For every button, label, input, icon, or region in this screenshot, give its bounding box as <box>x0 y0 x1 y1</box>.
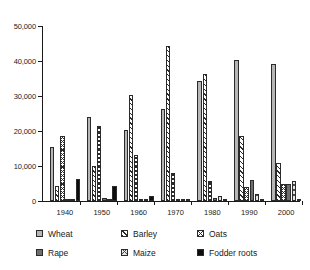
bar <box>244 187 248 201</box>
y-tick-mark <box>38 166 42 167</box>
bar <box>250 180 254 201</box>
bar <box>87 117 91 201</box>
x-tick-mark <box>265 201 266 205</box>
bar <box>124 130 128 201</box>
bar-group <box>87 26 117 201</box>
bar-chart: 010,00020,00030,00040,00050,000 19401950… <box>0 0 310 270</box>
y-tick-label: 40,000 <box>14 57 36 66</box>
legend-label: Oats <box>209 229 227 239</box>
bar <box>107 199 111 201</box>
x-tick-label: 2000 <box>278 208 295 217</box>
x-tick-mark <box>117 201 118 205</box>
y-tick-label: 50,000 <box>14 22 36 31</box>
bar <box>171 173 175 201</box>
bar-group <box>271 26 301 201</box>
fodder-roots-swatch <box>197 249 204 256</box>
bar <box>260 199 264 201</box>
y-tick-mark <box>38 201 42 202</box>
bar <box>176 199 180 201</box>
x-tick-label: 1940 <box>57 208 74 217</box>
legend-row: WheatBarleyOats <box>36 224 292 243</box>
chart-legend: WheatBarleyOatsRapeMaizeFodder roots <box>36 224 292 262</box>
bar <box>213 198 217 201</box>
bar <box>218 196 222 201</box>
bar <box>112 186 116 201</box>
rape-swatch <box>36 249 43 256</box>
legend-item[interactable]: Maize <box>121 248 197 258</box>
y-tick-mark <box>38 96 42 97</box>
bar-group <box>197 26 227 201</box>
bar <box>286 184 290 202</box>
bar <box>234 60 238 201</box>
bar <box>139 199 143 201</box>
bar <box>186 199 190 201</box>
legend-item[interactable]: Rape <box>36 248 121 258</box>
bar <box>129 95 133 201</box>
bar-group <box>234 26 264 201</box>
y-tick-mark <box>38 131 42 132</box>
bar <box>197 81 201 201</box>
bar <box>76 179 80 201</box>
bar <box>297 199 301 201</box>
x-tick-mark <box>302 201 303 205</box>
x-tick-label: 1950 <box>93 208 110 217</box>
y-tick-label: 30,000 <box>14 92 36 101</box>
bar <box>208 181 212 201</box>
bar <box>166 46 170 201</box>
y-tick-label: 0 <box>32 197 36 206</box>
bar-group <box>50 26 80 201</box>
legend-label: Fodder roots <box>209 248 257 258</box>
y-tick-label: 20,000 <box>14 127 36 136</box>
bar <box>102 198 106 201</box>
legend-label: Maize <box>133 248 156 258</box>
bar <box>50 147 54 201</box>
x-tick-label: 1960 <box>130 208 147 217</box>
x-tick-mark <box>191 201 192 205</box>
bar <box>70 199 74 201</box>
legend-label: Barley <box>133 229 157 239</box>
oats-swatch <box>197 230 204 237</box>
bar <box>255 194 259 201</box>
x-tick-label: 1990 <box>241 208 258 217</box>
bar-group <box>124 26 154 201</box>
bar <box>239 136 243 201</box>
barley-swatch <box>121 230 128 237</box>
legend-label: Wheat <box>48 229 73 239</box>
x-tick-mark <box>154 201 155 205</box>
bar <box>271 64 275 201</box>
y-tick-mark <box>38 61 42 62</box>
bar <box>181 199 185 201</box>
legend-item[interactable]: Wheat <box>36 229 121 239</box>
x-tick-mark <box>228 201 229 205</box>
bar <box>97 126 101 201</box>
y-tick-label: 10,000 <box>14 162 36 171</box>
bar <box>276 163 280 201</box>
bar <box>65 199 69 201</box>
bar-group <box>161 26 191 201</box>
bar <box>223 199 227 201</box>
legend-item[interactable]: Oats <box>197 229 292 239</box>
x-tick-mark <box>80 201 81 205</box>
bar <box>55 186 59 201</box>
bar <box>149 196 153 201</box>
bar <box>134 155 138 201</box>
bar <box>92 166 96 201</box>
bar <box>161 109 165 201</box>
bar <box>292 181 296 201</box>
y-tick-mark <box>38 26 42 27</box>
x-tick-label: 1970 <box>167 208 184 217</box>
legend-item[interactable]: Barley <box>121 229 197 239</box>
x-tick-label: 1980 <box>204 208 221 217</box>
maize-swatch <box>121 249 128 256</box>
legend-row: RapeMaizeFodder roots <box>36 243 292 262</box>
bar <box>144 199 148 201</box>
bar <box>281 184 285 201</box>
bar <box>203 74 207 201</box>
legend-item[interactable]: Fodder roots <box>197 248 292 258</box>
bar <box>60 136 64 201</box>
plot-area: 010,00020,00030,00040,00050,000 19401950… <box>42 26 300 202</box>
legend-label: Rape <box>48 248 68 258</box>
y-axis-line <box>42 26 43 202</box>
wheat-swatch <box>36 230 43 237</box>
